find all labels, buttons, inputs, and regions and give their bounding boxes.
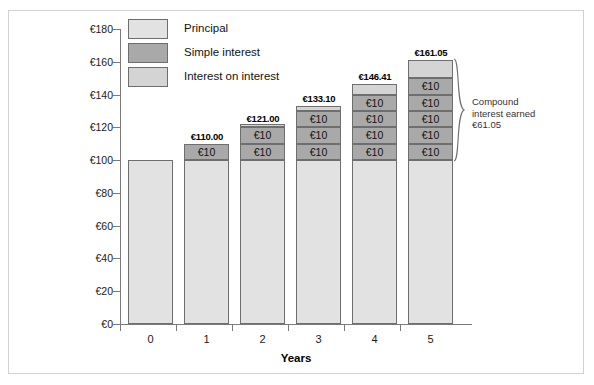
x-tick-label-1: 1	[184, 333, 229, 345]
bar-segment-simple-interest: €10	[408, 95, 453, 111]
annotation-line-3: €61.05	[472, 119, 568, 131]
bar-total-label-year-5: €161.05	[396, 47, 466, 58]
x-tick-label-4: 4	[352, 333, 397, 345]
bar-segment-label: €10	[297, 128, 340, 142]
bar-segment-simple-interest: €10	[240, 144, 285, 160]
bar-segment-label: €10	[353, 145, 396, 159]
x-axis-title: Years	[120, 352, 472, 364]
bar-segment-simple-interest: €10	[184, 144, 229, 160]
bar-total-label-year-1: €110.00	[172, 131, 242, 142]
y-tick-label-text: €120	[45, 122, 113, 132]
bar-segment-interest-on-interest	[352, 84, 397, 95]
bar-segment-interest-on-interest	[408, 60, 453, 78]
y-tick-label-80: €80	[44, 188, 113, 198]
bar-segment-simple-interest: €10	[352, 127, 397, 143]
bar-segment-simple-interest: €10	[296, 144, 341, 160]
bar-segment-label: €10	[409, 128, 452, 142]
y-tick-label-text: €0	[45, 319, 113, 329]
legend-swatch-simple-interest-icon	[128, 43, 168, 63]
bar-segment-label: €10	[297, 145, 340, 159]
bar-segment-simple-interest: €10	[352, 111, 397, 127]
bar-total-label-year-4: €146.41	[340, 71, 410, 82]
bar-segment-principal	[240, 160, 285, 324]
bar-chart: €0€20€40€60€80€100€120€140€160€180 01234…	[0, 0, 594, 385]
bar-segment-label: €10	[353, 128, 396, 142]
bar-segment-principal	[184, 160, 229, 324]
annotation-line-1: Compound	[472, 96, 568, 108]
bar-year-5[interactable]: €10€10€10€10€10	[408, 29, 453, 324]
x-tick-2	[232, 324, 233, 331]
y-tick-label-0: €0	[44, 319, 113, 329]
bar-segment-label: €10	[297, 112, 340, 126]
bar-segment-simple-interest: €10	[408, 127, 453, 143]
y-tick-label-text: €180	[45, 24, 113, 34]
y-tick-label-text: €160	[45, 57, 113, 67]
x-tick-0	[120, 324, 121, 331]
bar-segment-simple-interest: €10	[352, 144, 397, 160]
bar-segment-simple-interest: €10	[408, 144, 453, 160]
legend-swatch-interest-on-interest-icon	[128, 67, 168, 87]
y-tick-label-120: €120	[44, 122, 113, 132]
bar-segment-principal	[128, 160, 173, 324]
bar-segment-label: €10	[353, 112, 396, 126]
bar-year-3[interactable]: €10€10€10	[296, 29, 341, 324]
bar-segment-label: €10	[409, 112, 452, 126]
x-axis-line	[120, 324, 472, 325]
x-tick-label-5: 5	[408, 333, 453, 345]
bar-segment-principal	[408, 160, 453, 324]
y-tick-label-text: €60	[45, 221, 113, 231]
bar-segment-simple-interest: €10	[408, 78, 453, 94]
bar-segment-label: €10	[409, 145, 452, 159]
curly-brace-icon	[452, 58, 466, 162]
bar-total-label-year-2: €121.00	[228, 113, 298, 124]
bar-segment-label: €10	[241, 128, 284, 142]
y-tick-label-text: €20	[45, 286, 113, 296]
bar-segment-interest-on-interest	[240, 124, 285, 127]
bar-segment-label: €10	[185, 145, 228, 159]
x-tick-5	[400, 324, 401, 331]
y-tick-label-160: €160	[44, 57, 113, 67]
y-tick-label-20: €20	[44, 286, 113, 296]
compound-interest-annotation: Compound interest earned €61.05	[472, 96, 568, 131]
y-tick-label-text: €80	[45, 188, 113, 198]
y-tick-label-text: €40	[45, 253, 113, 263]
bar-segment-label: €10	[353, 96, 396, 110]
bar-segment-simple-interest: €10	[296, 111, 341, 127]
y-tick-label-60: €60	[44, 221, 113, 231]
bar-segment-principal	[352, 160, 397, 324]
bar-segment-simple-interest: €10	[296, 127, 341, 143]
y-tick-label-text: €140	[45, 90, 113, 100]
legend-label-simple-interest: Simple interest	[184, 46, 260, 58]
bar-segment-simple-interest: €10	[408, 111, 453, 127]
bar-segment-simple-interest: €10	[240, 127, 285, 143]
bar-segment-label: €10	[241, 145, 284, 159]
legend-label-interest-on-interest: Interest on interest	[184, 70, 279, 82]
x-tick-label-2: 2	[240, 333, 285, 345]
x-tick-3	[288, 324, 289, 331]
x-tick-1	[176, 324, 177, 331]
y-tick-label-40: €40	[44, 253, 113, 263]
annotation-line-2: interest earned	[472, 108, 568, 120]
x-tick-label-3: 3	[296, 333, 341, 345]
bar-total-label-year-3: €133.10	[284, 93, 354, 104]
bar-segment-interest-on-interest	[296, 106, 341, 111]
y-tick-label-100: €100	[44, 155, 113, 165]
bar-segment-label: €10	[409, 79, 452, 93]
y-tick-label-140: €140	[44, 90, 113, 100]
y-tick-label-180: €180	[44, 24, 113, 34]
bar-segment-principal	[296, 160, 341, 324]
bar-series-container: €10€10€10€10€10€10€10€10€10€10€10€10€10€…	[120, 29, 472, 324]
y-tick-label-text: €100	[45, 155, 113, 165]
legend-swatch-principal-icon	[128, 19, 168, 39]
x-tick-label-0: 0	[128, 333, 173, 345]
legend-label-principal: Principal	[184, 22, 228, 34]
bar-segment-label: €10	[409, 96, 452, 110]
bar-segment-simple-interest: €10	[352, 95, 397, 111]
x-tick-4	[344, 324, 345, 331]
